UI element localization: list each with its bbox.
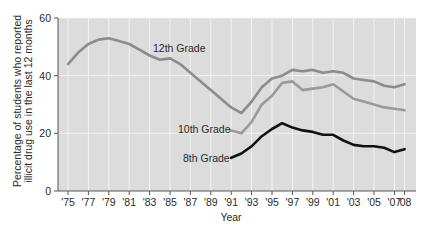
label-12th-grade: 12th Grade bbox=[153, 42, 206, 54]
x-tick-label: '95 bbox=[265, 196, 279, 208]
line-chart: 0204060 '75'77'79'81'83'85'87'89'91'93'9… bbox=[0, 0, 434, 233]
x-tick-label: '87 bbox=[184, 196, 198, 208]
label-8th-grade: 8th Grade bbox=[183, 152, 230, 164]
x-tick-label: '03 bbox=[347, 196, 361, 208]
x-tick-label: '75 bbox=[61, 196, 75, 208]
x-tick-label: '85 bbox=[163, 196, 177, 208]
y-tick-label: 60 bbox=[39, 12, 51, 24]
x-tick-label: '97 bbox=[286, 196, 300, 208]
y-tick-label: 20 bbox=[39, 127, 51, 139]
x-tick-label: '81 bbox=[122, 196, 136, 208]
y-axis-title: Percentage of students who reported illi… bbox=[11, 15, 34, 187]
y-axis-ticks: 0204060 bbox=[39, 12, 58, 197]
y-axis-title-line-2: illicit drug use in the last 12 months bbox=[22, 19, 34, 182]
x-axis-ticks: '75'77'79'81'83'85'87'89'91'93'95'97'99'… bbox=[61, 191, 411, 208]
x-tick-label: '91 bbox=[224, 196, 238, 208]
x-axis-title: Year bbox=[220, 211, 242, 223]
x-tick-label: '05 bbox=[367, 196, 381, 208]
x-tick-label: '89 bbox=[204, 196, 218, 208]
x-tick-label: '99 bbox=[306, 196, 320, 208]
x-tick-label: '01 bbox=[326, 196, 340, 208]
x-tick-label: '08 bbox=[398, 196, 412, 208]
label-10th-grade: 10th Grade bbox=[178, 123, 231, 135]
y-tick-label: 40 bbox=[39, 70, 51, 82]
x-tick-label: '83 bbox=[143, 196, 157, 208]
plot-background bbox=[58, 18, 416, 191]
x-tick-label: '77 bbox=[82, 196, 96, 208]
x-tick-label: '79 bbox=[102, 196, 116, 208]
x-tick-label: '93 bbox=[245, 196, 259, 208]
y-tick-label: 0 bbox=[45, 185, 51, 197]
